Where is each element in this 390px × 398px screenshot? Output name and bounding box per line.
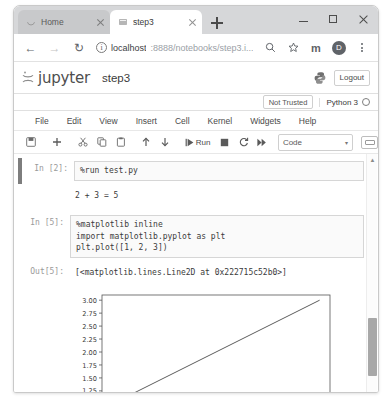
browser-tab-step3[interactable]: step3: [110, 10, 202, 34]
keyboard-icon[interactable]: [361, 136, 378, 149]
fast-forward-icon[interactable]: [253, 134, 272, 151]
notebook-scroll-container: In [2]: %run test.py 2 + 3 = 5 In [5]: %…: [14, 158, 378, 392]
cut-icon[interactable]: [74, 134, 93, 151]
browser-tab-title: Home: [41, 17, 95, 27]
star-icon[interactable]: [283, 38, 303, 58]
jupyter-toolbar: Run Code ▾: [14, 131, 378, 154]
cell-output-text: 2 + 3 = 5: [70, 187, 364, 205]
jupyter-circle-icon: [26, 17, 36, 27]
new-tab-button[interactable]: [206, 12, 228, 34]
extension-icon-m[interactable]: m: [306, 38, 326, 58]
jupyter-page: jupyter step3 Logout Not Trusted Python …: [14, 62, 378, 392]
url-path: :8888/notebooks/step3.i...: [150, 43, 253, 53]
notebook-icon: [118, 17, 128, 27]
scroll-up-arrow-icon[interactable]: ▲: [367, 154, 378, 165]
menu-cell[interactable]: Cell: [166, 114, 199, 128]
cell-source[interactable]: %matplotlib inline import matplotlib.pyp…: [70, 215, 364, 258]
kernel-name: Python 3: [326, 98, 358, 107]
close-icon[interactable]: [95, 17, 106, 28]
cell-output: Out[5]: [<matplotlib.lines.Line2D at 0x2…: [14, 261, 364, 285]
cell-output-prompt: [18, 187, 70, 205]
browser-tab-strip: Home step3: [14, 6, 378, 34]
back-icon[interactable]: ←: [20, 37, 41, 58]
notebook-cell[interactable]: In [5]: %matplotlib inline import matplo…: [14, 212, 364, 261]
cell-source[interactable]: %run test.py: [74, 161, 364, 181]
cell-type-value: Code: [283, 138, 302, 147]
jupyter-header: jupyter step3 Logout: [14, 62, 378, 94]
window-controls: [288, 6, 378, 32]
logout-button[interactable]: Logout: [334, 70, 370, 86]
menu-kernel[interactable]: Kernel: [199, 114, 242, 128]
site-info-icon[interactable]: i: [96, 42, 107, 53]
zoom-search-icon[interactable]: [260, 38, 280, 58]
svg-text:1.75: 1.75: [82, 361, 97, 369]
add-cell-icon[interactable]: [48, 134, 67, 151]
cell-output-text: [<matplotlib.lines.Line2D at 0x222715c52…: [70, 264, 364, 282]
menu-widgets[interactable]: Widgets: [241, 114, 290, 128]
url-host: localhost: [111, 43, 146, 53]
notebook-scrollbar[interactable]: ▲: [366, 154, 377, 392]
browser-address-bar: ← → ↻ i localhost:8888/notebooks/step3.i…: [14, 34, 378, 62]
svg-text:1.50: 1.50: [82, 374, 97, 382]
browser-tab-home[interactable]: Home: [18, 10, 110, 34]
kebab-menu-icon[interactable]: [352, 38, 372, 58]
notebook-cell[interactable]: In [2]: %run test.py: [18, 158, 364, 184]
paste-icon[interactable]: [111, 134, 130, 151]
scrollbar-thumb[interactable]: [368, 318, 377, 376]
run-button[interactable]: Run: [182, 134, 216, 151]
kernel-indicator[interactable]: Python 3: [319, 98, 370, 107]
kernel-status-icon: [362, 98, 370, 106]
cell-output: 2 + 3 = 5: [14, 184, 364, 208]
maximize-button[interactable]: [318, 6, 348, 32]
jupyter-logo[interactable]: jupyter: [22, 69, 90, 87]
stop-icon[interactable]: [215, 134, 234, 151]
svg-text:2.25: 2.25: [82, 335, 97, 343]
menu-file[interactable]: File: [26, 114, 58, 128]
matplotlib-figure: 1.001.251.501.752.002.252.502.753.000.00…: [14, 285, 364, 392]
arrow-up-icon[interactable]: [137, 134, 156, 151]
plot-canvas: 1.001.251.501.752.002.252.502.753.000.00…: [66, 289, 336, 392]
svg-text:3.00: 3.00: [82, 296, 97, 304]
cell-prompt: In [5]:: [18, 215, 70, 258]
restart-icon[interactable]: [234, 134, 253, 151]
svg-text:1.25: 1.25: [82, 387, 97, 392]
cell-type-select[interactable]: Code ▾: [278, 134, 353, 151]
python-logo-icon: [313, 71, 327, 85]
jupyter-menubar: File Edit View Insert Cell Kernel Widget…: [14, 111, 378, 131]
cell-prompt: In [2]:: [22, 161, 74, 181]
browser-window: Home step3 ← → ↻ i localhost:888: [13, 5, 379, 393]
jupyter-logo-icon: [22, 71, 35, 85]
run-icon: [185, 138, 194, 147]
arrow-down-icon[interactable]: [156, 134, 175, 151]
menu-help[interactable]: Help: [290, 114, 325, 128]
url-input[interactable]: i localhost:8888/notebooks/step3.i...: [92, 38, 257, 57]
reload-icon[interactable]: ↻: [68, 37, 89, 58]
browser-tab-title: step3: [133, 17, 187, 27]
svg-text:2.00: 2.00: [82, 348, 97, 356]
avatar[interactable]: D: [329, 38, 349, 58]
copy-icon[interactable]: [92, 134, 111, 151]
svg-text:2.50: 2.50: [82, 322, 97, 330]
menu-view[interactable]: View: [90, 114, 126, 128]
close-icon[interactable]: [187, 17, 198, 28]
menu-edit[interactable]: Edit: [58, 114, 91, 128]
run-label: Run: [196, 138, 211, 147]
trust-status-badge[interactable]: Not Trusted: [263, 95, 314, 109]
forward-icon[interactable]: →: [44, 37, 65, 58]
jupyter-logo-text: jupyter: [38, 69, 90, 87]
minimize-button[interactable]: [288, 6, 318, 32]
svg-text:2.75: 2.75: [82, 309, 97, 317]
notebook-body: In [2]: %run test.py 2 + 3 = 5 In [5]: %…: [14, 154, 378, 392]
save-icon[interactable]: [22, 134, 41, 151]
close-window-button[interactable]: [348, 6, 378, 32]
cell-output-prompt: Out[5]:: [18, 264, 70, 282]
chevron-down-icon: ▾: [345, 139, 348, 146]
menu-insert[interactable]: Insert: [127, 114, 166, 128]
notebook-title[interactable]: step3: [102, 72, 130, 84]
jupyter-status-bar: Not Trusted Python 3: [14, 94, 378, 111]
